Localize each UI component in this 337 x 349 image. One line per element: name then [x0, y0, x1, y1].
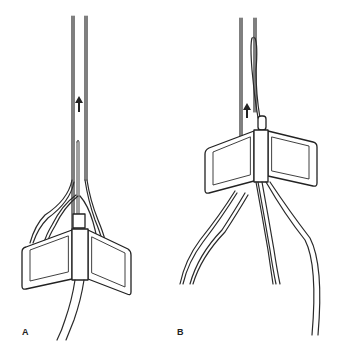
panel-label-a: A — [22, 327, 29, 337]
arrow-up-icon — [243, 103, 251, 118]
figure-illustration — [0, 0, 337, 349]
arrow-up-icon — [75, 96, 83, 112]
panel-b-drawing — [180, 18, 320, 335]
panel-label-b: B — [177, 327, 184, 337]
panel-a-drawing — [22, 16, 131, 340]
